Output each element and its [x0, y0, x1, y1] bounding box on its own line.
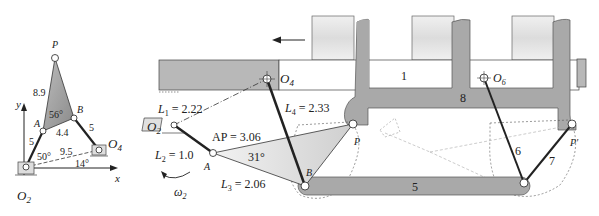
- o2-pivot: [171, 122, 177, 128]
- joint-b: [71, 115, 77, 121]
- joint-a: [40, 128, 46, 134]
- y-axis-arrow-icon: [21, 103, 27, 111]
- joint-b: [301, 182, 309, 190]
- angle-31: 31°: [248, 150, 265, 164]
- o2-pivot: [23, 164, 29, 170]
- label-link-6: 6: [515, 144, 521, 158]
- left-linkage-figure: y x P A B O2 O4 8.9 56° 4.4 5 5 50° 9.5 …: [15, 39, 122, 205]
- angle-o4: 14°: [75, 158, 89, 169]
- box-2: [412, 16, 454, 60]
- diagram-canvas: y x P A B O2 O4 8.9 56° 4.4 5 5 50° 9.5 …: [0, 0, 599, 216]
- label-o4: O4: [108, 136, 122, 153]
- label-p: P: [353, 136, 360, 147]
- dim-ap: AP = 3.06: [212, 130, 261, 144]
- label-o2: O2: [17, 188, 31, 205]
- joint-link5-6-7: [520, 179, 528, 187]
- y-axis-label: y: [15, 98, 21, 110]
- label-b: B: [306, 167, 312, 178]
- dim-l2: L2 = 1.0: [154, 148, 193, 164]
- frame-link-1: [279, 60, 579, 90]
- motion-arrow-icon: [272, 37, 281, 44]
- label-link-5: 5: [412, 180, 418, 194]
- point-p: [52, 55, 59, 62]
- point-p-prime: [568, 120, 576, 128]
- label-a: A: [33, 118, 41, 129]
- dim-o2a: 5: [29, 136, 34, 147]
- angle-o2: 50°: [37, 151, 51, 162]
- ghost-triangle: [380, 118, 400, 137]
- label-b: B: [77, 104, 83, 115]
- frame-end-stop: [577, 59, 586, 87]
- label-link-1: 1: [401, 69, 407, 83]
- x-axis-arrow-icon: [110, 165, 118, 171]
- point-p: [349, 120, 357, 128]
- label-p-prime: P′: [569, 137, 579, 148]
- joint-a: [210, 150, 217, 157]
- dim-ap: 8.9: [33, 87, 46, 98]
- angle-a: 56°: [49, 109, 63, 120]
- label-p: P: [51, 39, 58, 50]
- fourbar-walking-beam-diagram: y x P A B O2 O4 8.9 56° 4.4 5 5 50° 9.5 …: [0, 0, 599, 216]
- label-a: A: [203, 161, 211, 172]
- dim-l4: L4 = 2.33: [284, 101, 329, 117]
- label-link-8: 8: [460, 91, 466, 105]
- dim-l1: L1 = 2.22: [157, 102, 202, 118]
- box-1: [312, 16, 354, 60]
- frame-grey-section: [159, 60, 279, 90]
- dim-o4b: 5: [89, 122, 94, 133]
- dim-l3: L3 = 2.06: [220, 177, 265, 193]
- x-axis-label: x: [114, 172, 120, 184]
- dim-o2o4: 9.5: [60, 146, 73, 157]
- dim-ab: 4.4: [56, 127, 69, 138]
- rotation-arrow-icon: [163, 172, 190, 178]
- right-walking-beam-figure: O4 O6 O2 A B P P′ L1 = 2.22 L4 = 2.33 L2…: [142, 16, 586, 201]
- o4-pivot: [96, 147, 102, 153]
- coupler-triangle: [43, 58, 74, 131]
- label-link-7: 7: [549, 154, 555, 168]
- label-omega2: ω2: [174, 185, 186, 201]
- box-3: [512, 16, 554, 60]
